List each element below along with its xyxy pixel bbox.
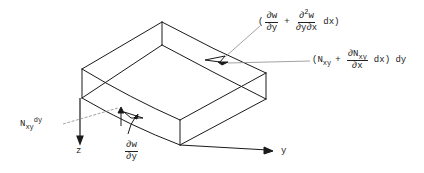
top-face-front-edge	[82, 69, 180, 120]
leader-slope-increment	[225, 26, 260, 57]
shear-force-arrow-front	[118, 107, 143, 134]
z-axis-label: z	[76, 147, 81, 156]
fraction-d2w-dydx: ∂2w ∂y∂x	[296, 12, 318, 33]
bottom-front-edge	[82, 98, 180, 145]
shear-force-arrow-back	[205, 56, 228, 65]
label-slope: ∂w ∂y	[123, 141, 140, 162]
paren-open: (	[258, 18, 263, 27]
top-face-left-edge	[82, 22, 162, 69]
z-axis	[77, 98, 83, 144]
bottom-back-right-edge	[162, 45, 266, 99]
leader-shear-front	[63, 108, 118, 124]
fraction-dNxy-dx: ∂Nxy ∂x	[347, 50, 368, 71]
y-axis-label: y	[281, 147, 286, 156]
label-slope-increment: ( ∂w ∂y + ∂2w ∂y∂x dx)	[258, 12, 339, 33]
top-face-back-edge	[162, 22, 266, 73]
top-face-right-edge	[180, 73, 266, 120]
bottom-back-left-edge	[82, 45, 162, 98]
fraction-dw-dy: ∂w ∂y	[265, 12, 278, 33]
label-shear-force-increment: (Nxy + ∂Nxy ∂x dx) dy	[312, 50, 406, 71]
y-axis	[180, 145, 273, 154]
plate-element-drawing	[0, 0, 424, 173]
bottom-right-edge	[180, 99, 266, 145]
label-shear-force: Nxydy	[20, 120, 42, 129]
